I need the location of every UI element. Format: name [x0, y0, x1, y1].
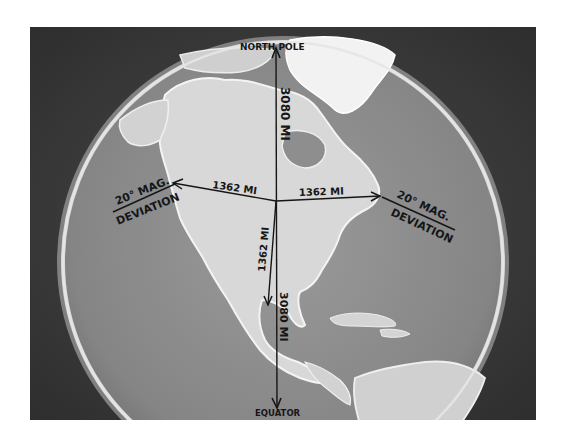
- equator-label: EQUATOR: [255, 408, 301, 418]
- globe-diagram: NORTH POLE EQUATOR 3080 MI 3080 MI 1362 …: [30, 27, 536, 420]
- south-distance-label: 3080 MI: [277, 292, 290, 341]
- meridian-line: [276, 48, 277, 408]
- north-distance-label: 3080 MI: [278, 87, 292, 141]
- east-distance-label: 1362 MI: [299, 185, 344, 198]
- north-pole-label: NORTH POLE: [240, 42, 305, 52]
- globe-photo: NORTH POLE EQUATOR 3080 MI 3080 MI 1362 …: [30, 27, 536, 420]
